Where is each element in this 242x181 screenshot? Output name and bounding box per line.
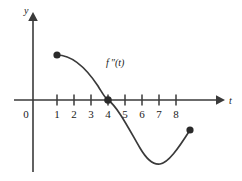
x-tick-label-2: 2: [71, 108, 77, 120]
zero-crossing-dot: [104, 96, 112, 104]
axes-group: [14, 12, 225, 172]
x-axis-tick-labels: 0 1 2 3 4 5 6 7 8: [23, 108, 179, 120]
y-axis-arrowhead: [28, 12, 38, 21]
right-endpoint-dot: [186, 126, 193, 133]
x-tick-label-6: 6: [139, 108, 145, 120]
curve-label: f ″(t): [106, 57, 125, 69]
x-tick-label-8: 8: [173, 108, 179, 120]
x-tick-label-3: 3: [88, 108, 94, 120]
x-tick-label-4: 4: [105, 108, 111, 120]
x-axis-arrowhead: [216, 95, 225, 105]
x-tick-label-7: 7: [156, 108, 162, 120]
y-axis-label: y: [23, 5, 29, 16]
x-tick-label-0: 0: [23, 108, 29, 120]
left-endpoint-dot: [53, 51, 60, 58]
graph-figure: 0 1 2 3 4 5 6 7 8 y t f ″(t): [0, 0, 242, 181]
plot-canvas: 0 1 2 3 4 5 6 7 8 y t f ″(t): [0, 0, 242, 181]
x-tick-label-1: 1: [54, 108, 60, 120]
x-axis-label: t: [229, 95, 232, 106]
